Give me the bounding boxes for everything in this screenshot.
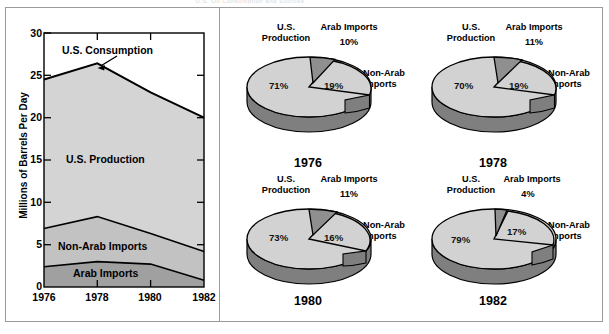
- pie-1976-pct-nonarab: 19%: [324, 80, 343, 91]
- pie-chart-1976: U.S. Production Arab Imports 10% Non-Ara…: [225, 12, 415, 172]
- pie-chart-1982: U.S. Production Arab Imports 4% Non-Arab…: [410, 168, 600, 328]
- pie-1980-pct-nonarab: 16%: [324, 232, 343, 243]
- pie-chart-1980: U.S. Production Arab Imports 11% Non-Ara…: [225, 168, 415, 328]
- pie-1982-pct-production: 79%: [451, 234, 470, 245]
- pie-1982-title: 1982: [398, 294, 588, 308]
- label-us-production: U.S. Production: [66, 153, 145, 165]
- x-tick-1976: 1976: [24, 291, 64, 303]
- area-chart-panel: Millions of Barrels Per Day 30 25 20 15 …: [0, 0, 219, 334]
- pie-1982-pct-nonarab: 17%: [507, 226, 526, 237]
- pie-1978-pct-nonarab: 19%: [509, 80, 528, 91]
- figure-root: U.S. Oil Consumption and Sources Million…: [0, 0, 609, 334]
- pie-1980-title: 1980: [213, 294, 403, 308]
- pie-1978-pct-production: 70%: [454, 80, 473, 91]
- label-us-consumption: U.S. Consumption: [62, 44, 153, 56]
- pie-chart-1978: U.S. Production Arab Imports 11% Non-Ara…: [410, 12, 600, 172]
- pie-1976-pct-production: 71%: [269, 80, 288, 91]
- pie-1980-pct-production: 73%: [269, 232, 288, 243]
- pie-charts-panel: U.S. Production Arab Imports 10% Non-Ara…: [220, 0, 609, 334]
- x-tick-1980: 1980: [130, 291, 170, 303]
- pie-1976-svg: [225, 12, 415, 172]
- label-arab-imports: Arab Imports: [73, 267, 138, 279]
- pie-1978-svg: [410, 12, 600, 172]
- x-tick-1978: 1978: [77, 291, 117, 303]
- label-nonarab-imports: Non-Arab Imports: [58, 240, 147, 252]
